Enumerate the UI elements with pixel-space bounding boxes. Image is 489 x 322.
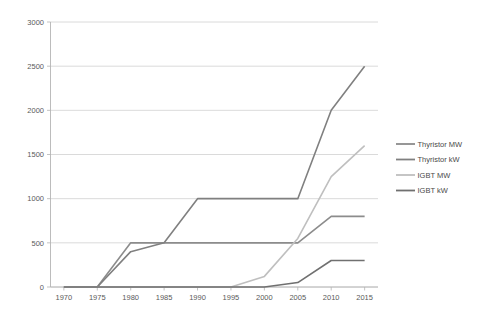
x-tick-label: 1980 [122,293,139,302]
gridlines [51,22,379,287]
y-tick-label: 3000 [27,18,44,27]
series-line-igbt-mw [64,146,365,287]
x-tick-label: 1990 [189,293,206,302]
legend-label-2: IGBT MW [418,171,452,180]
series-line-thyristor-mw [64,216,365,287]
x-tick-label: 2010 [323,293,340,302]
x-tick-label: 2015 [356,293,373,302]
x-tick-label: 1985 [156,293,173,302]
y-tick-label: 1500 [27,150,44,159]
chart-legend: Thyristor MWThyristor kWIGBT MWIGBT kW [396,140,463,196]
y-tick-label: 500 [31,239,44,248]
legend-label-0: Thyristor MW [418,140,464,149]
chart-container: 050010001500200025003000 197019751980198… [0,0,489,322]
x-tick-label: 2005 [289,293,306,302]
x-tick-label: 1975 [89,293,106,302]
y-tick-label: 2000 [27,106,44,115]
x-axis-tick-labels: 1970197519801985199019952000200520102015 [56,293,373,302]
y-tick-label: 1000 [27,194,44,203]
legend-label-1: Thyristor kW [418,155,461,164]
x-tick-label: 2000 [256,293,273,302]
legend-label-3: IGBT kW [418,186,449,195]
data-series-group [64,66,365,287]
y-axis-tick-labels: 050010001500200025003000 [27,18,44,292]
y-tick-label: 2500 [27,62,44,71]
series-line-thyristor-kw [64,66,365,287]
y-tick-label: 0 [40,283,44,292]
line-chart: 050010001500200025003000 197019751980198… [0,0,489,322]
x-tick-label: 1995 [223,293,240,302]
y-axis [47,22,51,287]
x-tick-label: 1970 [56,293,73,302]
